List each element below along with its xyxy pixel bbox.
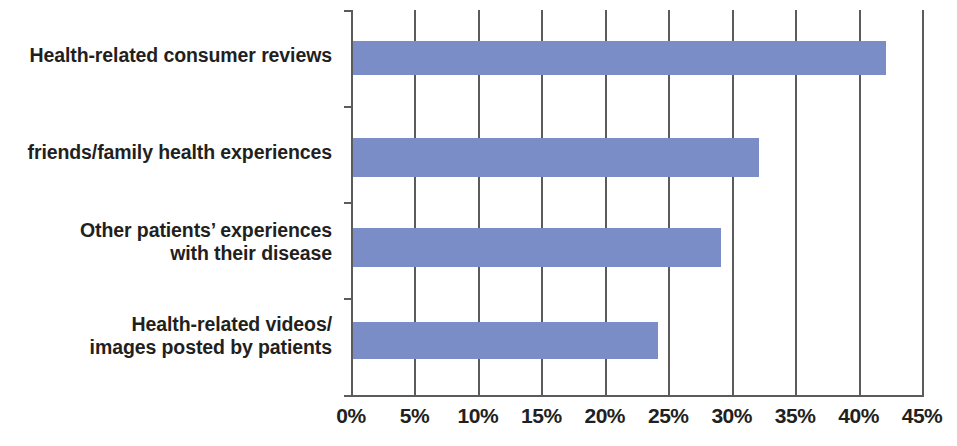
bar-0 — [353, 41, 886, 75]
xtick-label-0: 0% — [336, 404, 365, 428]
plot-area — [351, 10, 922, 395]
xtick-label-9: 45% — [902, 404, 943, 428]
category-label-column: Health-related consumer reviews friends/… — [0, 0, 340, 396]
xtick-label-3: 15% — [521, 404, 562, 428]
xtick-label-7: 35% — [775, 404, 816, 428]
category-label-0: Health-related consumer reviews — [0, 44, 332, 67]
bar-2 — [353, 228, 721, 267]
y-axis-tick-1 — [344, 106, 352, 108]
y-axis-tick-3 — [344, 298, 352, 300]
xtick-label-4: 20% — [585, 404, 626, 428]
category-label-1: friends/family health experiences — [0, 141, 332, 164]
y-axis-bottom-cap — [344, 395, 352, 397]
y-axis-top-cap — [344, 10, 352, 12]
category-label-2: Other patients’ experiences with their d… — [0, 219, 332, 265]
gridline-45 — [922, 10, 924, 395]
x-axis-tick-labels: 0% 5% 10% 15% 20% 25% 30% 35% 40% 45% — [351, 404, 951, 444]
y-axis-tick-2 — [344, 202, 352, 204]
xtick-label-8: 40% — [838, 404, 879, 428]
category-label-3: Health-related videos/ images posted by … — [0, 313, 332, 359]
xtick-label-1: 5% — [400, 404, 429, 428]
xtick-label-5: 25% — [648, 404, 689, 428]
bar-1 — [353, 138, 759, 177]
chart-screenshot: Health-related consumer reviews friends/… — [0, 0, 957, 446]
xtick-label-2: 10% — [458, 404, 499, 428]
xtick-label-6: 30% — [711, 404, 752, 428]
x-axis-line — [351, 395, 924, 397]
bar-3 — [353, 322, 658, 359]
